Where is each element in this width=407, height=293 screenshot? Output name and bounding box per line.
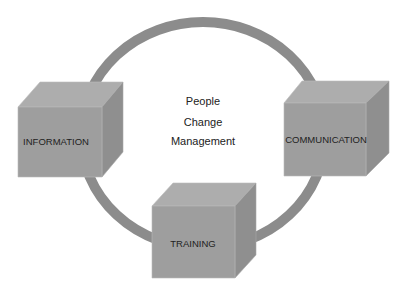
cube-label-training: TRAINING — [170, 238, 215, 249]
center-label: People Change Management — [171, 95, 235, 147]
cube-label-communication: COMMUNICATION — [285, 134, 367, 145]
center-line-people: People — [186, 95, 220, 107]
cube-label-information: INFORMATION — [23, 136, 89, 147]
cube-information: INFORMATION — [18, 82, 123, 177]
center-line-management: Management — [171, 135, 235, 147]
center-line-change: Change — [184, 116, 223, 128]
cube-communication: COMMUNICATION — [284, 81, 389, 176]
cube-training: TRAINING — [152, 183, 256, 278]
diagram-canvas: People Change Management INFORMATION COM… — [0, 0, 407, 293]
